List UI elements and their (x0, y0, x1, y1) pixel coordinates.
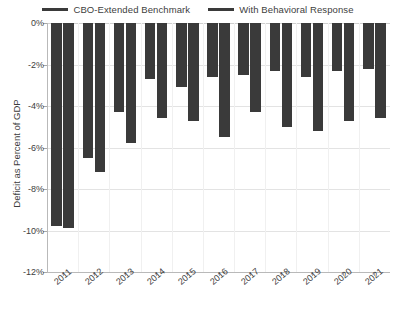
legend-swatch-icon (42, 8, 68, 11)
x-axis: 2011201220132014201520162017201820192020… (0, 272, 396, 309)
bar (301, 23, 312, 77)
bar (188, 23, 199, 121)
bar (344, 23, 355, 121)
bar (51, 23, 62, 226)
bar (363, 23, 374, 69)
bar (313, 23, 324, 131)
y-axis-tick-label: -4% (4, 101, 44, 111)
bar (95, 23, 106, 172)
bar (270, 23, 281, 71)
vertical-gridline (172, 23, 173, 272)
legend-label: With Behavioral Response (239, 4, 353, 15)
vertical-gridline (141, 23, 142, 272)
bar (83, 23, 94, 158)
vertical-gridline (78, 23, 79, 272)
bar (145, 23, 156, 79)
legend-item-with-behavioral-response: With Behavioral Response (208, 4, 353, 15)
bar (238, 23, 249, 75)
y-axis: 0%-2%-4%-6%-8%-10%-12% (0, 0, 44, 309)
y-axis-tick-label: -2% (4, 60, 44, 70)
bar (332, 23, 343, 71)
legend-label: CBO-Extended Benchmark (73, 4, 190, 15)
bar (250, 23, 261, 112)
chart-legend: CBO-Extended Benchmark With Behavioral R… (0, 4, 396, 15)
vertical-gridline (296, 23, 297, 272)
bar (126, 23, 137, 143)
bar (114, 23, 125, 112)
vertical-gridline (328, 23, 329, 272)
bar (219, 23, 230, 137)
vertical-gridline (265, 23, 266, 272)
bar (157, 23, 168, 118)
gridline (47, 189, 390, 190)
plot-area (47, 23, 390, 272)
y-axis-tick-label: -10% (4, 226, 44, 236)
vertical-gridline (109, 23, 110, 272)
y-axis-line (47, 23, 48, 273)
bar (282, 23, 293, 127)
gridline (47, 231, 390, 232)
deficit-bar-chart: CBO-Extended Benchmark With Behavioral R… (0, 0, 396, 309)
vertical-gridline (359, 23, 360, 272)
bar (375, 23, 386, 118)
y-axis-tick-label: 0% (4, 18, 44, 28)
bar (176, 23, 187, 87)
vertical-gridline (203, 23, 204, 272)
vertical-gridline (234, 23, 235, 272)
legend-swatch-icon (208, 8, 234, 11)
y-axis-tick-label: -6% (4, 143, 44, 153)
y-axis-tick-label: -8% (4, 184, 44, 194)
legend-item-cbo-extended-benchmark: CBO-Extended Benchmark (42, 4, 190, 15)
bar (63, 23, 74, 228)
bar (207, 23, 218, 77)
